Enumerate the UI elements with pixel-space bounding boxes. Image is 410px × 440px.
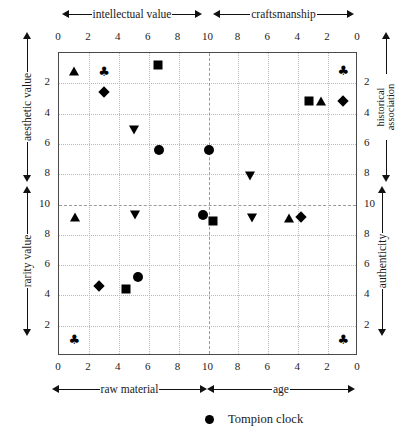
axis-title-intellectual-value: intellectual value — [62, 8, 202, 20]
gridline-horizontal — [59, 114, 356, 115]
chart-legend: Tompion clock — [205, 412, 303, 427]
gridline-vertical — [238, 53, 239, 354]
arrow-line — [317, 14, 347, 15]
gridline-horizontal — [59, 326, 356, 327]
arrow-head-left-icon — [52, 385, 59, 393]
scatter-chart-figure: intellectual value craftsmanship raw mat… — [0, 0, 410, 440]
arrow-head-left-icon — [207, 385, 214, 393]
tick-label-bottom: 2 — [317, 360, 337, 372]
tick-label-bottom: 4 — [287, 360, 307, 372]
data-point-triangle-down — [130, 211, 140, 220]
legend-marker-circle-icon — [205, 415, 214, 424]
arrow-head-left-icon — [62, 10, 69, 18]
tick-label-right: 2 — [364, 75, 382, 87]
data-point-triangle-down — [129, 126, 139, 135]
tick-label-top: 6 — [138, 30, 158, 42]
arrow-head-left-icon — [213, 10, 220, 18]
arrow-head-left-icon — [382, 175, 390, 182]
axis-title-intellectual-value-label: intellectual value — [92, 8, 173, 20]
tick-label-left: 10 — [32, 197, 50, 209]
gridline-vertical — [268, 53, 269, 354]
arrow-head-right-icon — [382, 32, 390, 39]
tick-label-right: 4 — [364, 106, 382, 118]
tick-label-left: 4 — [32, 106, 50, 118]
arrow-line — [69, 14, 92, 15]
tick-label-top: 6 — [257, 30, 277, 42]
tick-label-bottom: 8 — [168, 360, 188, 372]
data-point-club: ♣ — [98, 66, 109, 77]
data-point-square — [208, 217, 217, 226]
arrow-head-left-icon — [23, 329, 31, 336]
arrow-line — [27, 39, 28, 72]
tick-label-right: 8 — [364, 227, 382, 239]
tick-label-top: 4 — [108, 30, 128, 42]
tick-label-bottom: 4 — [108, 360, 128, 372]
arrow-head-right-icon — [23, 32, 31, 39]
arrow-head-left-icon — [23, 175, 31, 182]
tick-label-top: 4 — [287, 30, 307, 42]
axis-title-craftsmanship-label: craftsmanship — [250, 8, 317, 20]
arrow-line — [59, 389, 100, 390]
tick-label-bottom: 0 — [48, 360, 68, 372]
axis-title-age: age — [207, 383, 355, 395]
axis-title-craftsmanship: craftsmanship — [213, 8, 354, 20]
data-point-circle — [154, 145, 164, 155]
tick-label-left: 6 — [32, 257, 50, 269]
legend-label-tompion-clock: Tompion clock — [228, 412, 303, 427]
gridline-vertical-center — [209, 53, 210, 354]
arrow-head-right-icon — [23, 186, 31, 193]
tick-label-right: 6 — [364, 136, 382, 148]
data-point-square — [304, 97, 313, 106]
gridline-horizontal — [59, 174, 356, 175]
gridline-vertical — [179, 53, 180, 354]
axis-title-age-label: age — [272, 383, 290, 395]
arrow-head-right-icon — [200, 385, 207, 393]
tick-label-bottom: 6 — [138, 360, 158, 372]
plot-inner: ♣♣♣♣ — [59, 53, 356, 354]
gridline-horizontal-center — [59, 205, 356, 206]
gridline-horizontal — [59, 83, 356, 84]
data-point-triangle-up — [284, 214, 294, 223]
arrow-line — [220, 14, 250, 15]
arrow-line — [386, 140, 387, 175]
axis-title-raw-material: raw material — [52, 383, 207, 395]
tick-label-right: 8 — [364, 166, 382, 178]
tick-label-top: 8 — [227, 30, 247, 42]
tick-label-top: 0 — [347, 30, 367, 42]
arrow-line — [27, 288, 28, 329]
data-point-club: ♣ — [68, 334, 79, 345]
data-point-square — [153, 61, 162, 70]
tick-label-bottom: 2 — [78, 360, 98, 372]
tick-label-top: 2 — [78, 30, 98, 42]
axis-title-raw-material-label: raw material — [100, 383, 160, 395]
tick-label-bottom: 0 — [347, 360, 367, 372]
plot-area: ♣♣♣♣ — [58, 52, 357, 355]
arrow-line — [172, 14, 195, 15]
arrow-line — [214, 389, 272, 390]
tick-label-bottom: 6 — [257, 360, 277, 372]
tick-label-right: 6 — [364, 257, 382, 269]
data-point-triangle-up — [70, 212, 80, 221]
tick-label-right: 10 — [364, 197, 382, 209]
gridline-horizontal — [59, 295, 356, 296]
tick-label-right: 4 — [364, 287, 382, 299]
data-point-triangle-up — [69, 67, 79, 76]
tick-label-top: 8 — [168, 30, 188, 42]
tick-label-left: 8 — [32, 227, 50, 239]
arrow-head-right-icon — [195, 10, 202, 18]
data-point-circle — [133, 272, 143, 282]
gridline-vertical — [298, 53, 299, 354]
data-point-circle — [198, 210, 208, 220]
tick-label-bottom: 10 — [198, 360, 218, 372]
arrow-line — [27, 193, 28, 234]
arrow-head-left-icon — [378, 329, 386, 336]
data-point-triangle-down — [245, 171, 255, 180]
arrow-head-right-icon — [348, 385, 355, 393]
gridline-vertical — [328, 53, 329, 354]
arrow-head-right-icon — [378, 186, 386, 193]
data-point-diamond — [94, 281, 105, 292]
arrow-line — [386, 39, 387, 74]
tick-label-left: 2 — [32, 75, 50, 87]
tick-label-top: 10 — [198, 30, 218, 42]
data-point-club: ♣ — [338, 334, 349, 345]
